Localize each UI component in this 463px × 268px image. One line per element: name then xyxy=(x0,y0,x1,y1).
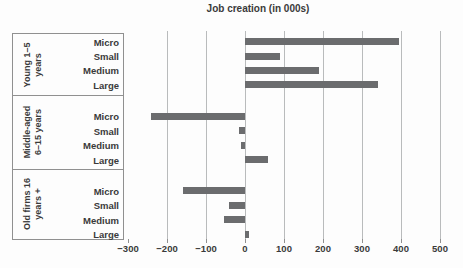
size-label-young-large: Large xyxy=(93,79,119,90)
chart-title: Job creation (in 000s) xyxy=(207,3,310,14)
x-axis-tick-label: 100 xyxy=(276,243,292,254)
gridline-x-200 xyxy=(323,31,324,239)
x-axis-tick-label: −100 xyxy=(195,243,216,254)
size-label-old-firms-small: Small xyxy=(94,200,119,211)
size-label-young-micro: Micro xyxy=(94,36,119,47)
job-creation-chart: Job creation (in 000s) Young 1–5yearsMic… xyxy=(0,0,463,268)
size-label-young-small: Small xyxy=(94,51,119,62)
gridline-x-0 xyxy=(245,31,246,239)
size-label-middle-aged-medium: Medium xyxy=(83,140,119,151)
x-axis-tick-label: 200 xyxy=(315,243,331,254)
group-label-line1: Young 1–5 xyxy=(22,42,33,87)
bar-middle-aged-small xyxy=(239,127,245,134)
size-label-old-firms-micro: Micro xyxy=(94,185,119,196)
group-label-line1: Old firms 16 xyxy=(22,178,33,230)
gridline-x-300 xyxy=(362,31,363,239)
group-label-line2: years + xyxy=(33,178,44,230)
x-axis-tick-label: −200 xyxy=(156,243,177,254)
group-label-line1: Middle-aged xyxy=(22,106,33,159)
x-axis-tick-label: 500 xyxy=(432,243,448,254)
gridline-x--200 xyxy=(167,31,168,239)
gridline-x--100 xyxy=(206,31,207,239)
bar-old-firms-large xyxy=(245,231,249,238)
group-label-line2: years xyxy=(33,42,44,87)
bar-old-firms-micro xyxy=(183,187,245,194)
size-label-middle-aged-small: Small xyxy=(94,125,119,136)
bar-old-firms-small xyxy=(229,202,245,209)
bar-young-small xyxy=(245,53,280,60)
x-axis-tick-label: −300 xyxy=(117,243,138,254)
gridline-x-100 xyxy=(284,31,285,239)
bar-young-large xyxy=(245,81,378,88)
size-label-old-firms-large: Large xyxy=(93,229,119,240)
group-label-middle-aged: Middle-aged6–15 years xyxy=(22,106,44,159)
size-label-middle-aged-micro: Micro xyxy=(94,111,119,122)
size-label-young-medium: Medium xyxy=(83,65,119,76)
x-axis-tick-label: 0 xyxy=(242,243,247,254)
size-label-old-firms-medium: Medium xyxy=(83,214,119,225)
gridline-x-500 xyxy=(440,31,441,239)
bar-middle-aged-micro xyxy=(151,113,245,120)
x-axis-tick-label: 300 xyxy=(354,243,370,254)
bar-young-medium xyxy=(245,67,319,74)
bar-middle-aged-medium xyxy=(241,142,245,149)
bar-young-micro xyxy=(245,38,399,45)
group-label-line2: 6–15 years xyxy=(33,106,44,159)
group-label-old-firms: Old firms 16years + xyxy=(22,178,44,230)
size-label-middle-aged-large: Large xyxy=(93,154,119,165)
bar-old-firms-medium xyxy=(224,216,245,223)
category-label-panel: Young 1–5yearsMicroSmallMediumLargeMiddl… xyxy=(12,33,124,240)
bar-middle-aged-large xyxy=(245,156,268,163)
group-label-young: Young 1–5years xyxy=(22,42,44,87)
gridline-x-400 xyxy=(401,31,402,239)
x-axis-tick-label: 400 xyxy=(393,243,409,254)
